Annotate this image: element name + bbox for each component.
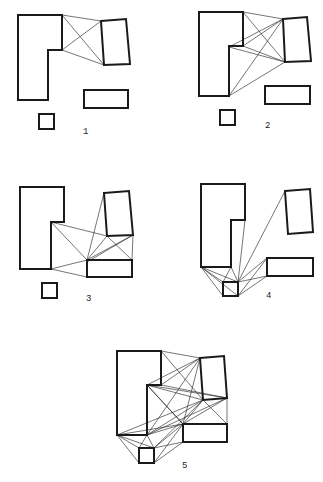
room-connection-diagrams: [0, 0, 323, 482]
diagram-5: [117, 351, 227, 463]
diagram-2: [199, 12, 311, 125]
diagram-label-5: 5: [182, 461, 187, 471]
diagram-label-4: 4: [266, 291, 271, 301]
diagram-4: [201, 184, 313, 296]
diagram-label-2: 2: [265, 121, 270, 131]
diagram-3: [20, 187, 133, 298]
diagram-figure: 1 2 3 4 5: [0, 0, 323, 482]
diagram-label-1: 1: [83, 127, 88, 137]
diagram-label-3: 3: [86, 294, 91, 304]
diagram-1: [18, 15, 130, 129]
